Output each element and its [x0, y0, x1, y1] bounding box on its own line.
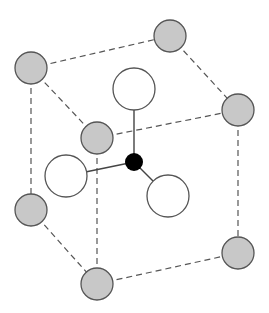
- cube-edge-bottom-front-bottom-right: [97, 253, 238, 284]
- atom-center: [125, 153, 143, 171]
- cube-edge-top-front-top-right: [97, 110, 238, 138]
- cube-edge-top-left-top-back: [31, 36, 170, 68]
- ligand-atoms: [45, 68, 189, 217]
- center-atom-group: [125, 153, 143, 171]
- atom-top-back: [154, 20, 186, 52]
- atom-top-left: [15, 52, 47, 84]
- atom-ligand-right: [147, 175, 189, 217]
- atom-bottom-front: [81, 268, 113, 300]
- unit-cell-diagram: [0, 0, 269, 313]
- atom-ligand-left: [45, 155, 87, 197]
- atom-bottom-right: [222, 237, 254, 269]
- atom-ligand-top: [113, 68, 155, 110]
- atom-bottom-left: [15, 194, 47, 226]
- atom-top-front: [81, 122, 113, 154]
- atom-top-right: [222, 94, 254, 126]
